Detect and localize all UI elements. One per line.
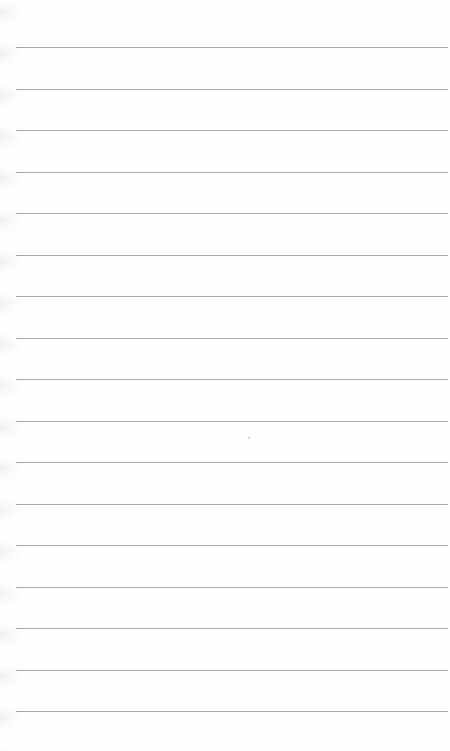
ruled-line [16, 545, 448, 546]
ruled-paper-page [0, 0, 450, 751]
ruled-line [16, 338, 448, 339]
ruled-line [16, 379, 448, 380]
ruled-line [16, 47, 448, 48]
paper-speck [248, 437, 250, 439]
ruled-line [16, 130, 448, 131]
ruled-line [16, 172, 448, 173]
ruled-line [16, 255, 448, 256]
ruled-line [16, 670, 448, 671]
ruled-line [16, 213, 448, 214]
ruled-line [16, 89, 448, 90]
ruled-line [16, 504, 448, 505]
ruled-line [16, 421, 448, 422]
binding-edge-shadow [0, 0, 22, 751]
ruled-line [16, 628, 448, 629]
ruled-line [16, 587, 448, 588]
ruled-line [16, 296, 448, 297]
ruled-line [16, 711, 448, 712]
ruled-line [16, 462, 448, 463]
